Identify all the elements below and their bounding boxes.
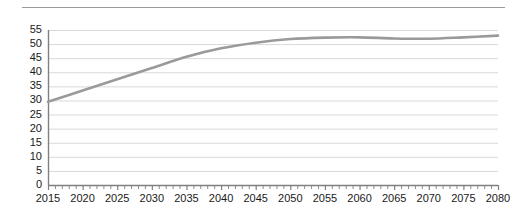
y-tick-label-25: 25 — [20, 109, 42, 120]
y-tick-label-20: 20 — [20, 123, 42, 134]
chart-figure: 0510152025303540455055 20152020202520302… — [0, 0, 526, 218]
y-tick-label-0: 0 — [20, 179, 42, 190]
y-tick-label-15: 15 — [20, 137, 42, 148]
line-chart-plot — [0, 0, 526, 218]
axes-group — [48, 30, 498, 186]
x-tick-label-2080: 2080 — [478, 193, 518, 204]
y-tick-label-10: 10 — [20, 151, 42, 162]
y-tick-label-55: 55 — [20, 24, 42, 35]
y-tick-label-45: 45 — [20, 52, 42, 63]
gridlines-group — [48, 31, 498, 172]
data-series-group — [48, 36, 498, 102]
y-tick-label-40: 40 — [20, 66, 42, 77]
y-tick-label-35: 35 — [20, 80, 42, 91]
y-tick-label-30: 30 — [20, 94, 42, 105]
data-line-series-1 — [48, 36, 498, 102]
y-tick-label-50: 50 — [20, 38, 42, 49]
y-tick-label-5: 5 — [20, 165, 42, 176]
